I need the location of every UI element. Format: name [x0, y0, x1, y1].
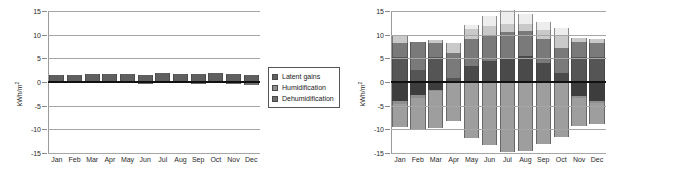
y-axis-tick-label: 15: [376, 8, 384, 15]
x-axis-label-apr: Apr: [104, 156, 115, 163]
bar-segment: [428, 43, 443, 57]
y-axis-tick: [385, 82, 390, 83]
y-axis-tick-label: 10: [33, 31, 41, 38]
bar-segment: [536, 22, 551, 30]
bar-segment: [482, 16, 497, 26]
x-axis-label-nov: Nov: [573, 156, 585, 163]
x-axis-label-oct: Oct: [210, 156, 221, 163]
bar-segment: [571, 82, 586, 96]
bar-segment: [482, 35, 497, 62]
bar-segment: [392, 104, 407, 127]
y-axis-tick-label: 0: [380, 79, 384, 86]
y-axis-tick: [42, 82, 47, 83]
bar-segment: [392, 82, 407, 101]
x-axis-label-oct: Oct: [556, 156, 567, 163]
bar-segment: [536, 83, 551, 143]
legend-item[interactable]: Dehumidification: [272, 93, 335, 104]
x-axis-label-may: May: [465, 156, 478, 163]
x-axis-label-jun: Jun: [140, 156, 151, 163]
latent-energy-chart: kWh/m2 151050-5-10-15 JanFebMarAprMayJun…: [0, 0, 341, 187]
bar-segment: [446, 43, 461, 53]
gridline: [391, 106, 606, 107]
x-axis-label-jan: Jan: [394, 156, 405, 163]
x-axis-label-mar: Mar: [430, 156, 442, 163]
y-axis-tick: [42, 106, 47, 107]
bar-segment: [518, 14, 533, 24]
bar-segment: [589, 82, 604, 101]
legend-label: Humidification: [282, 83, 326, 92]
x-axis-label-feb: Feb: [68, 156, 80, 163]
gridline: [391, 58, 606, 59]
bar-segment: [428, 57, 443, 82]
bar-segment: [392, 43, 407, 57]
bar-segment: [589, 43, 604, 57]
bar-segment: [500, 32, 515, 59]
legend-item[interactable]: Humidification: [272, 82, 335, 93]
gridline: [48, 58, 260, 59]
x-axis-label-sep: Sep: [192, 156, 204, 163]
y-axis-tick: [385, 153, 390, 154]
legend-swatch-icon: [272, 74, 278, 80]
y-axis-tick-label: -5: [378, 102, 384, 109]
bar-segment: [518, 56, 533, 82]
bar-segment: [589, 57, 604, 82]
legend-label: Latent gains: [282, 72, 320, 81]
bar-segment: [500, 83, 515, 151]
bar-segment: [428, 40, 443, 42]
y-axis-tick: [385, 129, 390, 130]
zero-axis-line: [391, 81, 606, 83]
bar-segment: [428, 82, 443, 90]
y-axis-tick-label: 10: [376, 31, 384, 38]
bar-segment: [518, 83, 533, 151]
legend-left: Latent gainsHumidificationDehumidificati…: [268, 67, 340, 108]
y-axis-tick: [42, 58, 47, 59]
y-axis-tick: [385, 35, 390, 36]
y-axis-tick-label: -10: [374, 126, 384, 133]
zero-axis-line: [48, 81, 260, 83]
y-axis-tick-label: 0: [37, 79, 41, 86]
bar-segment: [482, 83, 497, 145]
y-axis-tick: [385, 11, 390, 12]
y-axis-tick: [42, 129, 47, 130]
bar-segment: [464, 66, 479, 82]
bar-segment: [500, 58, 515, 82]
bar-segment: [500, 24, 515, 32]
x-axis-label-dec: Dec: [245, 156, 257, 163]
y-axis-tick-label: 5: [380, 55, 384, 62]
x-axis-label-jul: Jul: [503, 156, 512, 163]
x-axis-label-may: May: [121, 156, 134, 163]
plot-area-left: 151050-5-10-15: [48, 11, 260, 153]
y-axis-tick: [385, 106, 390, 107]
bar-segment: [571, 98, 586, 126]
bar-segment: [446, 53, 461, 78]
x-axis-label-jan: Jan: [51, 156, 62, 163]
x-axis-labels-left: JanFebMarAprMayJunJulAugSepOctNovDec: [48, 156, 260, 172]
bar-segment: [446, 83, 461, 120]
x-axis-label-dec: Dec: [591, 156, 603, 163]
legend-swatch-icon: [272, 85, 278, 91]
y-axis-tick: [42, 11, 47, 12]
bar-segment: [464, 39, 479, 66]
x-axis-label-apr: Apr: [448, 156, 459, 163]
figure-pair-canvas: kWh/m2 151050-5-10-15 JanFebMarAprMayJun…: [0, 0, 682, 187]
gridline: [48, 153, 260, 154]
plot-area-right: 151050-5-10-15: [391, 11, 606, 153]
bar-segment: [536, 39, 551, 63]
y-axis-tick: [42, 153, 47, 154]
x-axis-labels-right: JanFebMarAprMayJunJulAugSepOctNovDec: [391, 156, 606, 172]
gridline: [48, 106, 260, 107]
legend-swatch-icon: [272, 96, 278, 102]
bar-segment: [410, 42, 425, 70]
x-axis-label-aug: Aug: [174, 156, 186, 163]
legend-label: Dehumidification: [282, 94, 334, 103]
y-axis-tick-label: -15: [374, 150, 384, 157]
x-axis-label-jun: Jun: [484, 156, 495, 163]
y-axis-title-left: kWh/m2: [14, 81, 23, 106]
legend-item[interactable]: Latent gains: [272, 71, 335, 82]
x-axis-label-aug: Aug: [519, 156, 531, 163]
bar-segment: [392, 35, 407, 43]
bar-segment: [536, 63, 551, 82]
bar-segment: [392, 57, 407, 82]
bar-segment: [571, 57, 586, 82]
bar-segment: [554, 36, 569, 49]
